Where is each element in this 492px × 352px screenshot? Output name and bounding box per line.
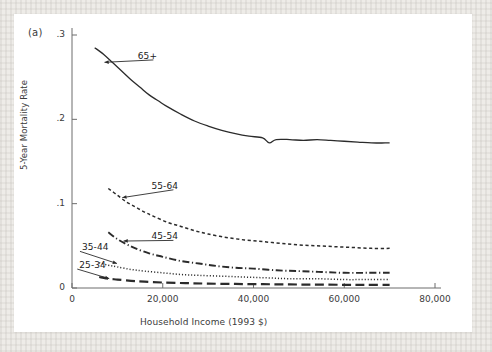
axes-layer <box>72 28 441 288</box>
series-annotation-45-54: 45-54 <box>151 231 178 241</box>
series-annotation-65plus: 65+ <box>138 51 157 61</box>
y-tick-label: .3 <box>43 29 65 39</box>
series-line-35-44 <box>99 263 389 280</box>
annotation-leader-line <box>122 190 173 198</box>
y-tick-label: 0 <box>43 282 65 292</box>
annotation-arrowhead <box>105 60 109 64</box>
annotation-arrowhead <box>105 276 110 280</box>
x-tick-label: 0 <box>42 294 102 304</box>
figure-page: (a) 5-Year Mortality Rate Household Inco… <box>0 0 492 352</box>
annotation-arrowhead <box>122 195 126 199</box>
annotation-arrowhead <box>112 260 117 264</box>
series-annotation-55-64: 55-64 <box>151 181 178 191</box>
x-tick-label: 20,000 <box>133 294 193 304</box>
series-annotation-35-44: 35-44 <box>82 242 109 252</box>
series-line-25-34 <box>99 277 389 285</box>
y-tick-label: .1 <box>43 198 65 208</box>
y-tick-label: .2 <box>43 113 65 123</box>
x-tick-label: 60,000 <box>314 294 374 304</box>
series-layer <box>95 48 390 285</box>
x-tick-label: 80,000 <box>405 294 465 304</box>
annotation-leader-line <box>77 269 109 279</box>
series-line-65plus <box>95 48 390 143</box>
x-tick-label: 40,000 <box>224 294 284 304</box>
series-annotation-25-34: 25-34 <box>79 260 106 270</box>
